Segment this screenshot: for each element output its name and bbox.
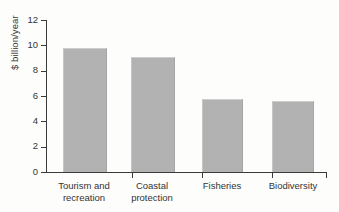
y-tick-4: 4 — [41, 121, 46, 122]
bar-biodiversity — [272, 101, 314, 172]
x-axis-line — [46, 172, 327, 173]
y-tick-label-0: 0 — [33, 166, 38, 177]
x-category-label-coastal-protection: Coastal protection — [118, 180, 186, 203]
x-separator-tick-2 — [202, 173, 203, 178]
x-category-label-fisheries: Fisheries — [188, 180, 256, 192]
bar-tourism-and-recreation — [63, 48, 107, 172]
x-separator-tick-3 — [272, 173, 273, 178]
y-tick-0: 0 — [41, 172, 46, 173]
y-tick-2: 2 — [41, 147, 46, 148]
y-tick-label-4: 4 — [33, 115, 38, 126]
y-tick-label-8: 8 — [33, 64, 38, 75]
y-axis-line — [46, 20, 47, 172]
y-tick-8: 8 — [41, 71, 46, 72]
y-tick-label-2: 2 — [33, 140, 38, 151]
y-tick-6: 6 — [41, 96, 46, 97]
plot-area: 0 2 4 6 8 10 12 Tourism and recreatio — [46, 20, 327, 172]
y-tick-label-12: 12 — [27, 14, 38, 25]
y-axis-label: $ billion/year — [9, 0, 23, 70]
x-category-label-biodiversity: Biodiversity — [255, 180, 331, 192]
y-tick-label-10: 10 — [27, 39, 38, 50]
bar-coastal-protection — [131, 57, 175, 172]
bar-fisheries — [202, 99, 243, 172]
x-separator-tick-4 — [326, 173, 327, 178]
y-tick-10: 10 — [41, 45, 46, 46]
bar-chart-figure: $ billion/year 0 2 4 6 8 10 12 — [0, 0, 339, 212]
y-tick-label-6: 6 — [33, 90, 38, 101]
x-separator-tick-1 — [132, 173, 133, 178]
y-tick-12: 12 — [41, 20, 46, 21]
x-category-label-tourism-and-recreation: Tourism and recreation — [48, 180, 120, 203]
